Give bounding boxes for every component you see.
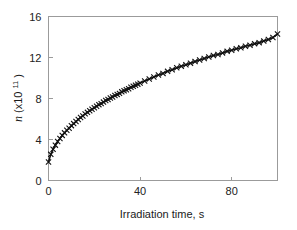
y-tick-label: 4 — [35, 134, 41, 146]
x-tick-label: 80 — [226, 185, 238, 197]
y-tick-label: 16 — [29, 11, 41, 23]
y-tick-label: 12 — [29, 52, 41, 64]
x-tick-label: 40 — [134, 185, 146, 197]
y-tick-label: 0 — [35, 175, 41, 187]
y-tick-label: 8 — [35, 93, 41, 105]
chart-figure: 04080 0481216 Irradiation time, s n (x10… — [0, 0, 297, 230]
x-tick-label: 0 — [45, 185, 51, 197]
chart-svg: 04080 0481216 Irradiation time, s n (x10… — [0, 0, 297, 230]
x-axis-title: Irradiation time, s — [120, 208, 205, 220]
